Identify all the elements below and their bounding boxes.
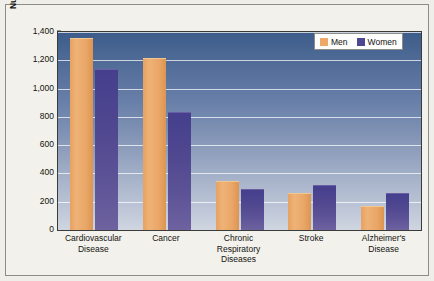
y-tick-label: 1,400 — [22, 26, 54, 36]
legend-swatch-men — [320, 38, 328, 46]
bar-women — [168, 112, 191, 230]
bar-women — [386, 193, 409, 230]
y-tick-label: 1,000 — [22, 83, 54, 93]
bar-men — [361, 206, 384, 230]
bar-men — [216, 181, 239, 230]
plot-area — [57, 31, 422, 231]
x-tick-label-line: Alzheimer's — [336, 233, 432, 244]
legend-entry: Women — [357, 37, 397, 47]
y-axis-tick-labels: 02004006008001,0001,2001,400 — [22, 31, 54, 229]
y-tick-label: 600 — [22, 139, 54, 149]
x-tick-label-line: Diseases — [191, 254, 287, 265]
y-tick-label: 800 — [22, 111, 54, 121]
x-tick-label-line: Disease — [45, 244, 141, 255]
chart-legend: MenWomen — [314, 33, 403, 50]
y-tick-label: 1,200 — [22, 54, 54, 64]
gridline — [58, 60, 421, 61]
x-tick-label: Alzheimer'sDisease — [336, 233, 432, 254]
bar-women — [241, 189, 264, 230]
legend-entry: Men — [320, 37, 348, 47]
legend-swatch-women — [357, 38, 365, 46]
chart-figure: Number of Deaths per 100,000 Annually 02… — [0, 0, 434, 281]
bar-men — [70, 38, 93, 230]
bar-men — [143, 58, 166, 230]
x-tick-label-line: Disease — [336, 244, 432, 255]
legend-label: Women — [368, 37, 397, 47]
x-tick-label-line: Respiratory — [191, 244, 287, 255]
y-tick-label: 200 — [22, 196, 54, 206]
bar-women — [95, 69, 118, 230]
bar-women — [313, 185, 336, 230]
y-tick-label: 400 — [22, 167, 54, 177]
legend-label: Men — [331, 37, 348, 47]
x-axis-tick-labels: CardiovascularDiseaseCancerChronicRespir… — [57, 233, 420, 277]
y-axis-title: Number of Deaths per 100,000 Annually — [6, 0, 20, 36]
bar-men — [288, 193, 311, 230]
